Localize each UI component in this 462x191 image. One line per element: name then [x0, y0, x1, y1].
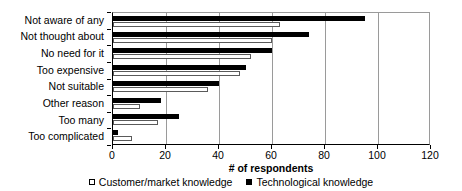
bar-group: [113, 129, 429, 142]
bar-group: [113, 15, 429, 28]
legend-label: Technological knowledge: [256, 176, 373, 188]
bar-technological-knowledge: [113, 114, 179, 119]
x-axis-tick-labels: 020406080100120: [112, 149, 430, 162]
bar-customer-market-knowledge: [113, 136, 132, 141]
bar-customer-market-knowledge: [113, 22, 280, 27]
bar-group: [113, 31, 429, 44]
x-axis-tick-label: 120: [421, 149, 439, 161]
category-label: Not thought about: [21, 31, 108, 42]
x-axis-title: # of respondents: [112, 162, 430, 174]
bar-customer-market-knowledge: [113, 104, 140, 109]
x-axis-tick-label: 80: [318, 149, 330, 161]
legend-entry-customer-market-knowledge: Customer/market knowledge: [89, 176, 233, 188]
y-axis-tick: [107, 29, 111, 30]
bar-chart-figure: Not aware of any Not thought about No ne…: [0, 0, 462, 191]
y-axis-tick: [107, 79, 111, 80]
category-label: Not aware of any: [25, 15, 108, 26]
y-axis-tick: [107, 128, 111, 129]
bar-customer-market-knowledge: [113, 54, 251, 59]
x-axis-tick-label: 100: [368, 149, 386, 161]
y-axis-tick: [107, 95, 111, 96]
bar-technological-knowledge: [113, 16, 365, 21]
chart-legend: Customer/market knowledge Technological …: [0, 176, 462, 188]
bar-technological-knowledge: [113, 130, 118, 135]
bar-technological-knowledge: [113, 32, 309, 37]
x-axis-tick-label: 20: [159, 149, 171, 161]
bar-group: [113, 64, 429, 77]
legend-label: Customer/market knowledge: [99, 176, 233, 188]
category-axis-labels: Not aware of any Not thought about No ne…: [0, 12, 108, 145]
category-label: Too complicated: [28, 131, 108, 142]
bar-group: [113, 97, 429, 110]
y-axis-tick: [107, 112, 111, 113]
x-axis-tick-label: 0: [109, 149, 115, 161]
bar-group: [113, 80, 429, 93]
open-square-icon: [89, 179, 95, 185]
bar-groups: [113, 13, 429, 144]
bar-customer-market-knowledge: [113, 120, 158, 125]
x-axis-tick-label: 60: [265, 149, 277, 161]
bar-customer-market-knowledge: [113, 71, 240, 76]
y-axis-tick: [107, 62, 111, 63]
bar-technological-knowledge: [113, 65, 246, 70]
category-label: Other reason: [43, 98, 108, 109]
y-axis-tick: [107, 145, 111, 146]
y-axis-tick: [107, 45, 111, 46]
bar-customer-market-knowledge: [113, 38, 272, 43]
bar-technological-knowledge: [113, 98, 161, 103]
bar-group: [113, 113, 429, 126]
filled-square-icon: [246, 179, 252, 185]
category-label: Not suitable: [49, 81, 108, 92]
category-label: Too expensive: [37, 65, 108, 76]
category-label: Too many: [58, 115, 108, 126]
bar-group: [113, 47, 429, 60]
y-axis-tick: [107, 12, 111, 13]
plot-area: [112, 12, 430, 145]
x-axis-tick-label: 40: [212, 149, 224, 161]
category-label: No need for it: [41, 48, 108, 59]
bar-technological-knowledge: [113, 48, 272, 53]
bar-customer-market-knowledge: [113, 87, 208, 92]
bar-technological-knowledge: [113, 81, 219, 86]
legend-entry-technological-knowledge: Technological knowledge: [246, 176, 373, 188]
